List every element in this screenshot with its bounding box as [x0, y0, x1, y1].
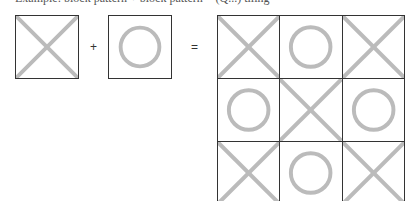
circle-icon [280, 142, 341, 201]
x-icon [343, 16, 404, 78]
x-icon [343, 142, 404, 201]
grid-cell-x [218, 16, 280, 79]
x-icon [218, 142, 279, 201]
input-x-tile [15, 15, 79, 79]
circle-icon [109, 16, 171, 78]
equals-operator: = [191, 40, 198, 54]
x-icon [218, 16, 279, 78]
circle-icon [218, 79, 279, 141]
circle-icon [280, 16, 341, 78]
circle-icon [343, 79, 404, 141]
grid-cell-o [218, 79, 280, 142]
grid-cell-x [343, 16, 405, 79]
plus-operator: + [90, 40, 97, 54]
grid-cell-x [343, 142, 405, 201]
grid-cell-x [280, 79, 342, 142]
input-o-tile [108, 15, 172, 79]
caption: Example: block pattern + block pattern =… [15, 0, 269, 6]
grid-cell-o [280, 142, 342, 201]
grid-cell-o [280, 16, 342, 79]
x-icon [16, 16, 78, 78]
grid-cell-o [343, 79, 405, 142]
result-grid [217, 15, 405, 201]
x-icon [280, 79, 341, 141]
grid-cell-x [218, 142, 280, 201]
